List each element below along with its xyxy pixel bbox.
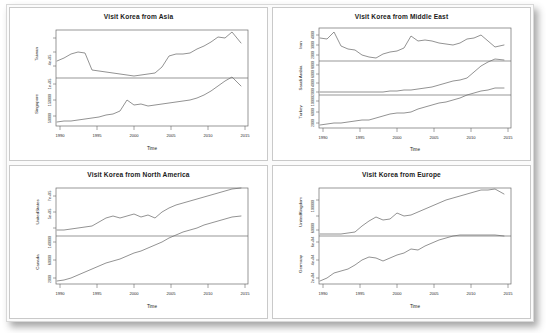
y-tick-label-us-2: 5e+05 (48, 209, 52, 219)
plot-svg-asia: 4e+05 1e+05 150000 50000 Taiwan (10, 8, 268, 161)
y-axis-name-canada: Canada (35, 254, 40, 270)
y-tick-label-canada-2: 60000 (48, 255, 52, 265)
y-tick-label-turkey-1: 10000 (311, 96, 315, 106)
series-line-taiwan (57, 32, 241, 76)
y-axis-name-unitedstates: UnitedStates (35, 199, 40, 225)
plot-europe: 100000 60000 6e+04 4e+04 2e+04 UnitedKin… (273, 166, 530, 318)
plot-svg-north-america: 7e+05 5e+05 140000 60000 2000 UnitedStat… (10, 166, 268, 319)
y-ticks-iran: 4000 3000 2000 (311, 31, 319, 59)
y-ticks-unitedkingdom: 100000 60000 (311, 200, 319, 233)
x-tick-label-1: 1990 (318, 291, 328, 296)
x-tick-label-5: 2010 (466, 291, 476, 296)
y-tick-label-canada-1: 140000 (48, 236, 52, 248)
plot-asia: 4e+05 1e+05 150000 50000 Taiwan (10, 8, 267, 160)
plot-middle-east: 4000 3000 2000 8000 6000 4000 (273, 8, 530, 160)
x-axis-name-europe: Time (410, 304, 420, 309)
x-ticks: 1990 1995 2000 2005 2010 2015 (318, 284, 513, 296)
y-axis-name-turkey: Turkey (298, 105, 303, 119)
figure-root: Visit Korea from Asia (0, 0, 552, 333)
x-tick-label-6: 2015 (240, 133, 250, 138)
panel-north-america: Visit Korea from North America (9, 165, 268, 319)
y-tick-label-saudi-1: 8000 (311, 61, 315, 69)
y-tick-label-iran-1: 4000 (311, 31, 315, 39)
x-tick-label-2: 1995 (355, 135, 365, 140)
panel-europe: Visit Korea from Europe 100 (272, 165, 531, 319)
x-tick-label-3: 2000 (129, 291, 139, 296)
y-ticks-turkey: 10000 6000 2000 (311, 96, 319, 127)
y-tick-label-germany-2: 4e+04 (311, 255, 315, 265)
x-tick-label-1: 1990 (55, 133, 65, 138)
y-ticks-saudi-arabia: 8000 6000 4000 2000 (311, 61, 319, 96)
panel-middle-east: Visit Korea from Middle East (272, 7, 531, 161)
x-tick-label-1: 1990 (55, 291, 65, 296)
y-ticks-unitedstates: 7e+05 5e+05 (48, 191, 56, 228)
y-axis-name-saudi-arabia: Saudi Arabia (298, 65, 303, 90)
x-tick-label-5: 2010 (203, 133, 213, 138)
x-ticks: 1990 1995 2000 2005 2010 2015 (55, 284, 250, 296)
x-tick-label-6: 2015 (503, 291, 513, 296)
y-tick-label-germany-1: 6e+04 (311, 237, 315, 247)
series-line-iran (320, 32, 504, 58)
plot-north-america: 7e+05 5e+05 140000 60000 2000 UnitedStat… (10, 166, 267, 318)
y-tick-label-saudi-2: 6000 (311, 70, 315, 78)
y-tick-label-saudi-3: 4000 (311, 79, 315, 87)
y-ticks-taiwan: 4e+05 (48, 38, 56, 66)
x-tick-label-2: 1995 (92, 133, 102, 138)
y-ticks-singapore: 1e+05 150000 50000 (48, 79, 56, 123)
x-tick-label-1: 1990 (318, 135, 328, 140)
x-tick-label-2: 1995 (92, 291, 102, 296)
x-tick-label-4: 2005 (166, 133, 176, 138)
x-tick-label-3: 2000 (392, 291, 402, 296)
x-tick-label-4: 2005 (429, 135, 439, 140)
y-axis-name-unitedkingdom: UnitedKingdom (298, 197, 303, 227)
y-tick-label-iran-2: 3000 (311, 41, 315, 49)
y-tick-label-iran-3: 2000 (311, 51, 315, 59)
x-tick-label-4: 2005 (166, 291, 176, 296)
series-line-turkey (320, 88, 504, 125)
x-tick-label-4: 2005 (429, 291, 439, 296)
x-ticks: 1990 1995 2000 2005 2010 2015 (55, 126, 250, 138)
y-tick-label-taiwan: 4e+05 (48, 55, 52, 65)
y-axis-name-taiwan: Taiwan (34, 47, 39, 61)
y-tick-label-singapore-3: 50000 (48, 113, 52, 123)
series-line-germany (320, 235, 504, 281)
series-line-canada (57, 216, 241, 281)
y-axis-name-iran: Iran (298, 41, 303, 49)
series-line-unitedstates (57, 188, 241, 230)
plot-frame (319, 28, 511, 128)
y-ticks-canada: 140000 60000 2000 (48, 236, 56, 283)
y-tick-label-saudi-4: 2000 (311, 88, 315, 96)
x-tick-label-3: 2000 (129, 133, 139, 138)
x-ticks: 1990 1995 2000 2005 2010 2015 (318, 128, 513, 140)
y-tick-label-turkey-2: 6000 (311, 108, 315, 116)
series-line-saudi-arabia (320, 59, 504, 92)
x-tick-label-2: 1995 (355, 291, 365, 296)
series-line-singapore (57, 77, 241, 122)
y-tick-label-uk-1: 100000 (311, 200, 315, 212)
x-axis-name-asia: Time (147, 146, 157, 151)
series-line-unitedkingdom (320, 189, 504, 234)
y-tick-label-uk-2: 60000 (311, 223, 315, 233)
x-tick-label-6: 2015 (240, 291, 250, 296)
y-tick-label-canada-3: 2000 (48, 275, 52, 283)
panel-grid: Visit Korea from Asia (7, 5, 533, 321)
y-tick-label-singapore-1: 1e+05 (48, 79, 52, 89)
x-axis-name-middle-east: Time (410, 147, 420, 152)
x-tick-label-5: 2010 (203, 291, 213, 296)
x-axis-name-north-america: Time (147, 304, 157, 309)
y-ticks-germany: 6e+04 4e+04 2e+04 (311, 237, 319, 283)
plot-svg-middle-east: 4000 3000 2000 8000 6000 4000 (273, 8, 531, 161)
y-tick-label-us-1: 7e+05 (48, 191, 52, 201)
x-tick-label-5: 2010 (466, 135, 476, 140)
x-tick-label-3: 2000 (392, 135, 402, 140)
y-axis-name-singapore: Singapore (34, 93, 39, 114)
plot-svg-europe: 100000 60000 6e+04 4e+04 2e+04 UnitedKin… (273, 166, 531, 319)
y-axis-name-germany: Germany (298, 254, 303, 273)
document-sheet: Visit Korea from Asia (6, 4, 534, 322)
x-tick-label-6: 2015 (503, 135, 513, 140)
y-tick-label-germany-3: 2e+04 (311, 273, 315, 283)
y-tick-label-singapore-2: 150000 (48, 94, 52, 106)
y-tick-label-turkey-3: 2000 (311, 119, 315, 127)
panel-asia: Visit Korea from Asia (9, 7, 268, 161)
